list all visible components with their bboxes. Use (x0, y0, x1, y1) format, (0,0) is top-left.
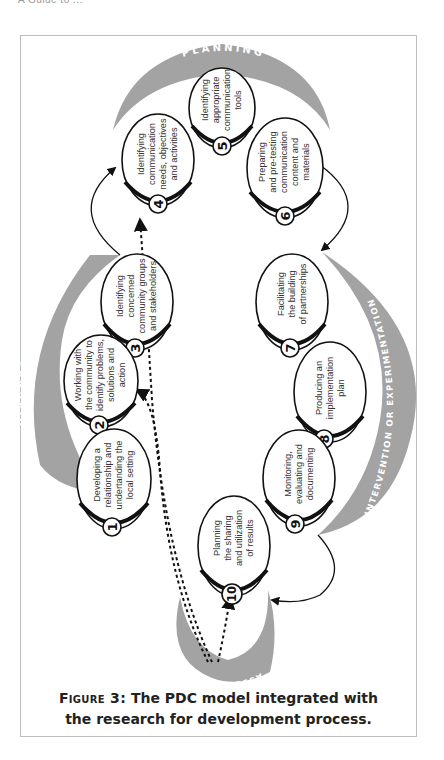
svg-text:Identifying: Identifying (200, 79, 210, 121)
svg-text:Identifying: Identifying (115, 275, 125, 317)
step-1: 1 Developing a relationship and undertan… (77, 429, 151, 536)
svg-text:and stakeholders: and stakeholders (148, 261, 158, 331)
svg-text:communication: communication (279, 131, 289, 193)
caption-line-2: the research for development process. (20, 709, 417, 730)
svg-text:2: 2 (92, 420, 107, 429)
svg-text:implementation: implementation (325, 357, 335, 419)
svg-text:materials: materials (301, 143, 311, 181)
svg-text:the community to: the community to (84, 340, 94, 410)
svg-text:documenting: documenting (305, 448, 315, 501)
svg-text:10: 10 (225, 586, 239, 602)
svg-text:relationship and: relationship and (103, 443, 113, 508)
svg-text:the building: the building (287, 271, 297, 318)
phase-arc-assessment (176, 590, 274, 682)
figure-label: Figure 3: (59, 690, 126, 706)
dotted-arrow-to-10 (218, 598, 230, 662)
svg-text:solutions and: solutions and (106, 348, 116, 402)
svg-text:action: action (117, 363, 127, 388)
caption-line-1: The PDC model integrated with (131, 690, 378, 706)
svg-text:Identifying: Identifying (136, 133, 146, 175)
svg-text:of results: of results (245, 519, 255, 557)
arrow-6-to-7 (320, 165, 348, 250)
svg-text:Facilitating: Facilitating (276, 272, 286, 316)
step-5: 5 Identifying appropriate communication … (189, 68, 255, 155)
svg-text:Producing an: Producing an (314, 361, 324, 415)
svg-text:and activities: and activities (169, 127, 179, 181)
step-10: 10 Planning the sharing and utilization … (198, 496, 270, 604)
svg-text:Preparing: Preparing (257, 142, 267, 182)
figure-caption: Figure 3: The PDC model integrated with … (20, 688, 417, 730)
svg-text:Developing a: Developing a (92, 447, 102, 502)
svg-text:appropriate: appropriate (211, 77, 221, 123)
step-2: 2 Working with the community to identify… (64, 335, 138, 434)
svg-text:needs, objectives: needs, objectives (158, 118, 168, 189)
step-6: 6 Preparing and pre-testing communicatio… (247, 118, 323, 225)
svg-text:6: 6 (278, 211, 293, 220)
svg-text:communication: communication (147, 123, 157, 185)
dotted-arrow-to-2 (137, 390, 208, 662)
svg-text:plan: plan (336, 379, 346, 396)
svg-text:Planning: Planning (212, 520, 222, 556)
svg-text:identify problems,: identify problems, (95, 339, 105, 411)
arrow-9-to-10 (272, 535, 335, 602)
pdc-diagram: PLANNING DIAGNOSIS INTERVENTION OR EXPER… (0, 0, 444, 760)
step-7: 7 Facilitating the building of partnersh… (256, 254, 328, 357)
svg-text:tools: tools (233, 90, 243, 110)
svg-text:local setting: local setting (125, 451, 135, 500)
svg-text:9: 9 (288, 519, 303, 528)
svg-text:community groups: community groups (137, 258, 147, 333)
arrow-3-to-4 (91, 168, 120, 255)
svg-text:7: 7 (283, 343, 298, 352)
svg-text:4: 4 (151, 199, 166, 208)
svg-text:communication: communication (222, 69, 232, 131)
svg-text:and utilization: and utilization (234, 510, 244, 566)
svg-text:Monitoring,: Monitoring, (283, 451, 293, 496)
svg-text:evaluating and: evaluating and (294, 444, 304, 504)
svg-text:5: 5 (215, 141, 230, 150)
step-4: 4 Identifying communication needs, objec… (122, 114, 194, 213)
svg-text:the sharing: the sharing (223, 515, 233, 560)
svg-text:and pre-testing: and pre-testing (268, 131, 278, 192)
step-9: 9 Monitoring, evaluating and documenting (263, 430, 335, 533)
svg-text:of partnerships: of partnerships (298, 263, 308, 324)
svg-text:content and: content and (290, 138, 300, 186)
svg-text:concerned: concerned (126, 275, 136, 318)
phase-label-diagnosis: DIAGNOSIS (16, 341, 34, 427)
svg-text:undertanding the: undertanding the (114, 441, 124, 510)
svg-text:1: 1 (105, 522, 120, 531)
svg-text:Working with: Working with (73, 349, 83, 401)
